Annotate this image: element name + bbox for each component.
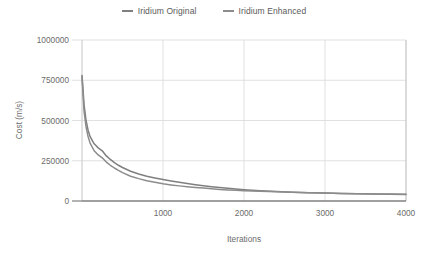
chart-figure: Iridium Original Iridium Enhanced 025000… <box>0 0 428 259</box>
svg-text:3000: 3000 <box>316 208 335 218</box>
svg-text:2000: 2000 <box>235 208 254 218</box>
y-axis-title: Cost (m/s) <box>14 101 24 139</box>
x-axis-tick-labels: 1000200030004000 <box>154 208 416 218</box>
svg-text:500000: 500000 <box>41 116 69 126</box>
svg-text:1000: 1000 <box>154 208 173 218</box>
svg-text:1000000: 1000000 <box>37 35 70 45</box>
svg-text:0: 0 <box>64 196 69 206</box>
svg-text:750000: 750000 <box>41 75 69 85</box>
y-axis-tick-labels: 02500005000007500001000000 <box>37 35 70 206</box>
x-axis-title: Iterations <box>227 234 261 244</box>
chart-plot-area: 02500005000007500001000000 1000200030004… <box>0 0 428 259</box>
svg-text:250000: 250000 <box>41 156 69 166</box>
svg-text:4000: 4000 <box>397 208 416 218</box>
